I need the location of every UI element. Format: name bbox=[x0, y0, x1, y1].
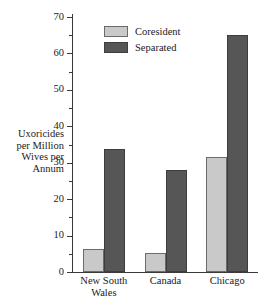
x-axis-category-label: New SouthWales bbox=[73, 275, 135, 298]
x-axis-category-label-line: Canada bbox=[135, 275, 197, 287]
bar-separated bbox=[104, 149, 125, 272]
bar-coresident bbox=[206, 157, 227, 272]
x-axis-category-label: Chicago bbox=[196, 275, 258, 287]
bar-separated bbox=[166, 170, 187, 272]
chart-legend: Coresident Separated bbox=[104, 25, 181, 57]
legend-swatch-separated-icon bbox=[104, 42, 128, 53]
y-axis-tick-label: 0 bbox=[38, 267, 64, 277]
x-axis-category-label: Canada bbox=[135, 275, 197, 287]
bar-chart: Uxoricides per Million Wives per Annum 0… bbox=[0, 0, 261, 306]
bar-separated bbox=[227, 35, 248, 272]
y-axis-tick-label: 10 bbox=[38, 230, 64, 240]
legend-label-coresident: Coresident bbox=[135, 26, 181, 37]
legend-item-separated: Separated bbox=[104, 41, 181, 53]
y-axis-tick-label: 70 bbox=[38, 12, 64, 22]
x-axis-category-label-line: Wales bbox=[73, 287, 135, 299]
y-axis-tick-label: 20 bbox=[38, 194, 64, 204]
y-axis-tick-labels: 010203040506070 bbox=[36, 0, 64, 306]
y-axis-tick-label: 30 bbox=[38, 157, 64, 167]
y-axis-tick-label: 40 bbox=[38, 121, 64, 131]
y-axis-tick-label: 60 bbox=[38, 48, 64, 58]
legend-label-separated: Separated bbox=[135, 42, 176, 53]
y-axis-tick-label: 50 bbox=[38, 84, 64, 94]
bar-coresident bbox=[83, 249, 104, 272]
x-axis-category-label-line: Chicago bbox=[196, 275, 258, 287]
x-axis-line bbox=[72, 272, 258, 273]
bar-coresident bbox=[145, 253, 166, 272]
x-axis-category-label-line: New South bbox=[73, 275, 135, 287]
legend-item-coresident: Coresident bbox=[104, 25, 181, 37]
x-axis-category-labels: New SouthWalesCanadaChicago bbox=[73, 275, 258, 306]
legend-swatch-coresident-icon bbox=[104, 26, 128, 37]
